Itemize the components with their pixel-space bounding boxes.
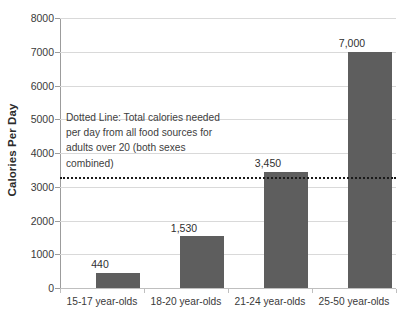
x-tick-mark [396, 289, 397, 293]
bar-value-label: 7,000 [328, 37, 376, 49]
annotation-line: per day from all food sources for [66, 125, 252, 140]
x-axis-label-15-17: 15-17 year-olds [60, 296, 144, 307]
x-axis-label-21-24: 21-24 year-olds [228, 296, 312, 307]
gridline [60, 221, 396, 222]
bar-value-label: 440 [76, 258, 124, 270]
y-tick-label: 5000 [8, 114, 54, 124]
y-tick-label: 0 [8, 283, 54, 293]
bar-25-50 [348, 52, 392, 288]
y-tick-label: 1000 [8, 249, 54, 259]
y-tick-label: 3000 [8, 182, 54, 192]
x-tick-mark [312, 289, 313, 293]
reference-dotted-line [60, 177, 396, 179]
y-tick-label: 4000 [8, 148, 54, 158]
y-tick-label: 6000 [8, 81, 54, 91]
x-axis-label-25-50: 25-50 year-olds [312, 296, 396, 307]
gridline [60, 86, 396, 87]
x-tick-mark [60, 289, 61, 293]
y-tick-label: 7000 [8, 47, 54, 57]
gridline [60, 187, 396, 188]
x-tick-mark [144, 289, 145, 293]
gridline [60, 254, 396, 255]
bar-chart: Calories Per Day 8000 7000 6000 5000 400… [0, 0, 413, 317]
bar-21-24 [264, 172, 308, 288]
gridline [60, 52, 396, 53]
y-tick-label: 2000 [8, 216, 54, 226]
bar-18-20 [180, 236, 224, 288]
annotation-line: combined) [66, 156, 252, 171]
x-axis-label-18-20: 18-20 year-olds [144, 296, 228, 307]
y-tick-label: 8000 [8, 13, 54, 23]
annotation-line: adults over 20 (both sexes [66, 140, 252, 155]
x-tick-mark [228, 289, 229, 293]
gridline [60, 18, 396, 19]
bar-value-label: 1,530 [160, 222, 208, 234]
bar-15-17 [96, 273, 140, 288]
annotation-line: Dotted Line: Total calories needed [66, 110, 252, 125]
y-axis-tick-labels: 8000 7000 6000 5000 4000 3000 2000 1000 … [8, 0, 54, 317]
reference-line-annotation: Dotted Line: Total calories needed per d… [66, 110, 252, 171]
